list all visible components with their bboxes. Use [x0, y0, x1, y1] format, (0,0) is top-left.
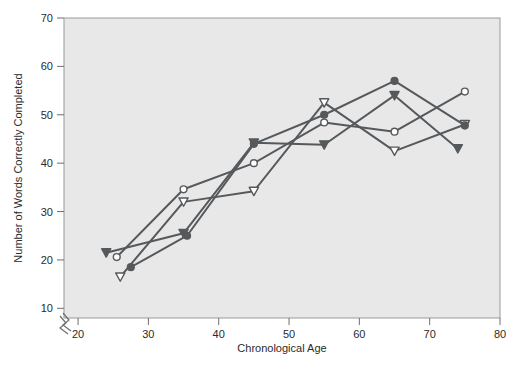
- x-tick-label: 20: [72, 328, 84, 340]
- x-tick-label: 60: [353, 328, 365, 340]
- y-tick-label: 20: [41, 254, 53, 266]
- y-tick-label: 60: [41, 60, 53, 72]
- line-chart: 10203040506070 20304050607080 Chronologi…: [0, 0, 529, 366]
- data-point-open-circle: [321, 119, 328, 126]
- y-axis-title: Number of Words Correctly Completed: [12, 73, 24, 262]
- y-axis-ticks: 10203040506070: [41, 12, 64, 314]
- y-tick-label: 30: [41, 206, 53, 218]
- data-point-filled-circle: [127, 264, 134, 271]
- data-point-filled-circle: [461, 122, 468, 129]
- x-axis-title: Chronological Age: [237, 342, 326, 354]
- x-axis-ticks: 20304050607080: [72, 318, 506, 340]
- y-tick-label: 40: [41, 157, 53, 169]
- data-point-open-circle: [250, 160, 257, 167]
- data-point-open-circle: [113, 254, 120, 261]
- data-point-filled-circle: [184, 232, 191, 239]
- y-tick-label: 50: [41, 109, 53, 121]
- data-point-filled-circle: [391, 78, 398, 85]
- chart-figure: 10203040506070 20304050607080 Chronologi…: [0, 0, 529, 366]
- data-point-filled-circle: [250, 140, 257, 147]
- plot-area-background: [64, 18, 500, 318]
- x-tick-label: 50: [283, 328, 295, 340]
- x-tick-label: 80: [494, 328, 506, 340]
- y-tick-label: 10: [41, 302, 53, 314]
- data-point-open-circle: [180, 186, 187, 193]
- x-tick-label: 70: [424, 328, 436, 340]
- data-point-filled-circle: [321, 111, 328, 118]
- x-tick-label: 30: [142, 328, 154, 340]
- x-tick-label: 40: [213, 328, 225, 340]
- y-tick-label: 70: [41, 12, 53, 24]
- data-point-open-circle: [391, 128, 398, 135]
- data-point-open-circle: [461, 88, 468, 95]
